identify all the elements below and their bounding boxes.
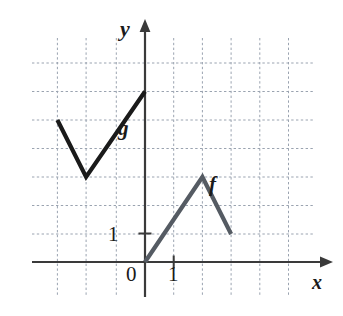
x-axis-arrow-icon [320, 257, 333, 268]
curve-label-g: g [118, 118, 129, 139]
curve-g [57, 92, 145, 178]
x-axis-tick-label-1: 1 [168, 264, 179, 285]
y-axis-label: y [120, 18, 130, 40]
curve-f [145, 177, 231, 262]
y-axis-arrow-icon [140, 19, 151, 32]
x-axis-label: x [312, 272, 322, 292]
origin-label: 0 [126, 264, 137, 285]
graph-figure: y x g f 1 0 1 [0, 0, 343, 316]
y-axis-tick-label-1: 1 [108, 224, 119, 245]
curve-label-f: f [209, 174, 216, 195]
axis-x [32, 256, 333, 269]
